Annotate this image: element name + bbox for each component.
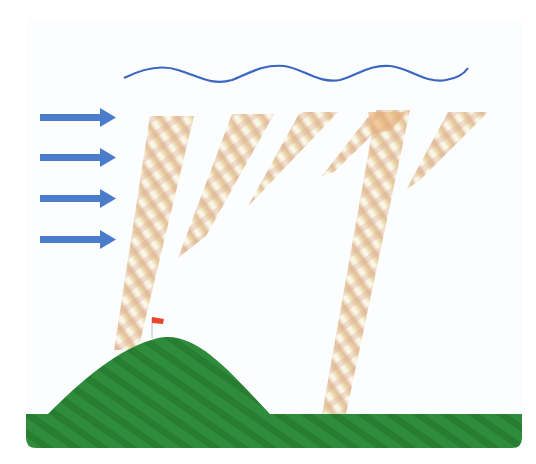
- arrow-icon: [40, 230, 116, 249]
- beam-1: [114, 116, 194, 350]
- beam-5: [322, 110, 410, 414]
- beam-6: [406, 112, 488, 190]
- arrow-icon: [40, 189, 116, 208]
- wind-arrows: [40, 108, 116, 249]
- arrow-icon: [40, 108, 116, 127]
- scene: [0, 0, 536, 464]
- hill-ground: [26, 337, 522, 448]
- wave-line: [124, 66, 468, 82]
- flag-icon: [152, 317, 164, 338]
- arrow-icon: [40, 148, 116, 167]
